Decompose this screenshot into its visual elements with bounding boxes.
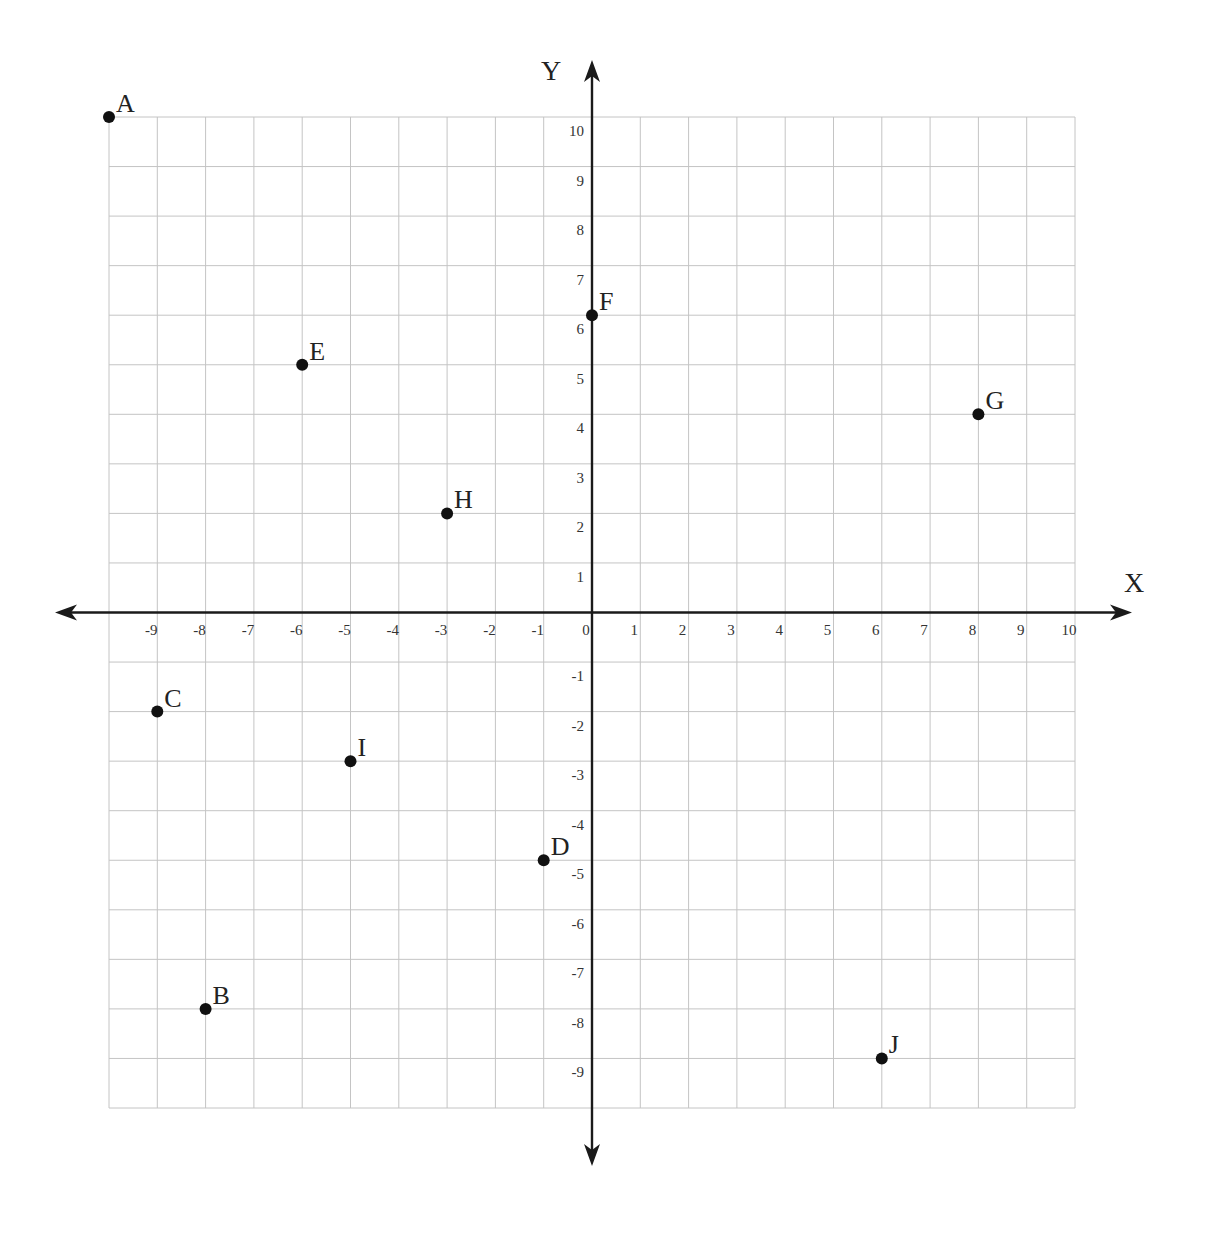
y-axis-title: Y <box>541 55 561 86</box>
x-tick-label: 5 <box>824 622 832 638</box>
point-g: G <box>972 386 1004 420</box>
y-tick-label: -6 <box>572 916 585 932</box>
x-tick-label: -9 <box>145 622 158 638</box>
x-tick-label: -7 <box>242 622 255 638</box>
point-i: I <box>345 733 367 767</box>
y-tick-label: -8 <box>572 1015 585 1031</box>
plotted-points: ABCDEFGHIJ <box>103 89 1004 1064</box>
point-dot <box>586 309 598 321</box>
point-c: C <box>151 684 181 718</box>
x-tick-label: -6 <box>290 622 303 638</box>
x-tick-label: 2 <box>679 622 687 638</box>
point-label: F <box>599 287 613 316</box>
y-tick-labels: 10987654321-1-2-3-4-5-6-7-8-9 <box>569 123 585 1080</box>
point-label: E <box>309 337 325 366</box>
point-dot <box>296 359 308 371</box>
point-dot <box>200 1003 212 1015</box>
y-tick-label: -5 <box>572 866 585 882</box>
y-tick-label: 10 <box>569 123 584 139</box>
x-tick-label: 1 <box>631 622 639 638</box>
x-tick-label: -2 <box>483 622 496 638</box>
point-dot <box>103 111 115 123</box>
point-h: H <box>441 485 473 519</box>
x-tick-label: 8 <box>969 622 977 638</box>
y-tick-label: 5 <box>577 371 585 387</box>
point-b: B <box>200 981 230 1015</box>
point-dot <box>538 854 550 866</box>
point-dot <box>441 507 453 519</box>
point-f: F <box>586 287 613 321</box>
x-tick-label: -4 <box>387 622 400 638</box>
point-label: I <box>358 733 367 762</box>
point-a: A <box>103 89 135 123</box>
y-tick-label: 7 <box>577 272 585 288</box>
x-axis-title: X <box>1124 567 1144 598</box>
x-tick-label: -5 <box>338 622 351 638</box>
point-label: B <box>213 981 230 1010</box>
y-tick-label: 2 <box>577 519 585 535</box>
x-tick-label: 3 <box>727 622 735 638</box>
x-tick-label: -3 <box>435 622 448 638</box>
y-tick-label: 9 <box>577 173 585 189</box>
point-label: C <box>164 684 181 713</box>
point-dot <box>972 408 984 420</box>
point-e: E <box>296 337 325 371</box>
x-tick-label: 0 <box>582 622 590 638</box>
y-tick-label: -7 <box>572 965 585 981</box>
point-dot <box>876 1052 888 1064</box>
y-tick-label: 4 <box>577 420 585 436</box>
y-tick-label: 8 <box>577 222 585 238</box>
y-tick-label: -1 <box>572 668 585 684</box>
x-tick-label: -1 <box>531 622 544 638</box>
point-d: D <box>538 832 570 866</box>
y-tick-label: -4 <box>572 817 585 833</box>
x-tick-label: 9 <box>1017 622 1025 638</box>
y-tick-label: 6 <box>577 321 585 337</box>
point-j: J <box>876 1030 899 1064</box>
coordinate-plane: X Y -9-8-7-6-5-4-3-2-1012345678910 10987… <box>0 0 1207 1234</box>
x-tick-label: -8 <box>193 622 206 638</box>
y-tick-label: -2 <box>572 718 585 734</box>
y-tick-label: 3 <box>577 470 585 486</box>
x-tick-label: 6 <box>872 622 880 638</box>
point-label: G <box>985 386 1004 415</box>
x-tick-label: 10 <box>1062 622 1077 638</box>
point-dot <box>345 755 357 767</box>
y-tick-label: -3 <box>572 767 585 783</box>
x-tick-labels: -9-8-7-6-5-4-3-2-1012345678910 <box>145 622 1076 638</box>
point-dot <box>151 706 163 718</box>
point-label: J <box>889 1030 899 1059</box>
y-tick-label: -9 <box>572 1064 585 1080</box>
x-tick-label: 4 <box>775 622 783 638</box>
x-tick-label: 7 <box>920 622 928 638</box>
point-label: A <box>116 89 135 118</box>
point-label: H <box>454 485 473 514</box>
y-tick-label: 1 <box>577 569 585 585</box>
point-label: D <box>551 832 570 861</box>
